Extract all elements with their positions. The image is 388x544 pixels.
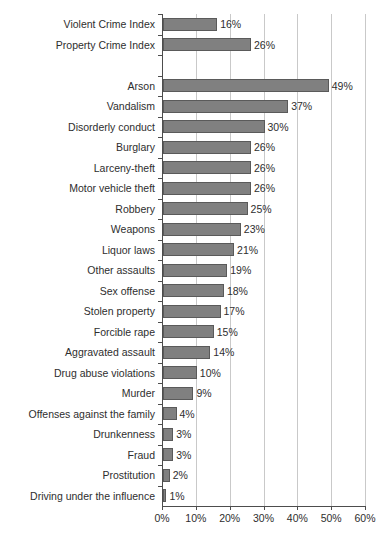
y-tick [158, 219, 162, 220]
y-tick [158, 55, 162, 56]
bar-value-label: 4% [180, 409, 195, 420]
y-tick [158, 424, 162, 425]
bar [163, 120, 265, 133]
bar-value-label: 30% [268, 122, 289, 133]
bar [163, 489, 166, 502]
bar-value-label: 3% [176, 429, 191, 440]
y-tick [158, 14, 162, 15]
bar-value-label: 21% [237, 245, 258, 256]
category-label: Arson [128, 81, 155, 92]
bar-value-label: 19% [230, 265, 251, 276]
y-tick [158, 281, 162, 282]
category-label: Liquor laws [102, 245, 155, 256]
category-label: Fraud [128, 450, 155, 461]
bar [163, 264, 227, 277]
bar-value-label: 49% [332, 81, 353, 92]
bar-value-label: 26% [254, 142, 275, 153]
x-tick-label: 10% [185, 512, 206, 524]
bar-value-label: 9% [196, 388, 211, 399]
category-label: Prostitution [102, 470, 155, 481]
x-tick-30 [264, 506, 265, 510]
category-label: Drug abuse violations [54, 368, 155, 379]
bar-value-label: 25% [251, 204, 272, 215]
gridline-60 [365, 14, 366, 506]
y-tick [158, 137, 162, 138]
bar-value-label: 3% [176, 450, 191, 461]
y-tick [158, 76, 162, 77]
y-tick [158, 301, 162, 302]
category-label: Violent Crime Index [64, 19, 155, 30]
x-tick-label: 20% [219, 512, 240, 524]
bar-value-label: 26% [254, 163, 275, 174]
category-label: Forcible rape [94, 327, 155, 338]
y-tick [158, 342, 162, 343]
bar [163, 407, 177, 420]
category-label: Robbery [115, 204, 155, 215]
category-label: Offenses against the family [29, 409, 155, 420]
category-label: Property Crime Index [56, 40, 155, 51]
y-tick [158, 383, 162, 384]
x-tick-label: 30% [253, 512, 274, 524]
y-tick [158, 465, 162, 466]
y-tick [158, 260, 162, 261]
y-tick [158, 96, 162, 97]
category-label: Vandalism [107, 101, 155, 112]
x-tick-40 [297, 506, 298, 510]
y-tick [158, 404, 162, 405]
y-tick [158, 322, 162, 323]
category-label: Driving under the influence [30, 491, 155, 502]
y-tick [158, 199, 162, 200]
category-label: Burglary [116, 142, 155, 153]
bar [163, 182, 251, 195]
bar [163, 284, 224, 297]
y-tick [158, 486, 162, 487]
category-label: Sex offense [100, 286, 155, 297]
bar [163, 325, 214, 338]
bar-value-label: 2% [173, 470, 188, 481]
x-tick-20 [230, 506, 231, 510]
bar [163, 305, 221, 318]
bar-value-label: 15% [217, 327, 238, 338]
x-tick-60 [365, 506, 366, 510]
y-tick [158, 35, 162, 36]
bar-value-label: 18% [227, 286, 248, 297]
bar [163, 346, 210, 359]
y-tick [158, 178, 162, 179]
horizontal-bar-chart: Violent Crime Index16%Property Crime Ind… [0, 0, 388, 544]
bar [163, 141, 251, 154]
bar [163, 18, 217, 31]
x-tick-label: 60% [354, 512, 375, 524]
bar [163, 448, 173, 461]
bar-value-label: 23% [244, 224, 265, 235]
bar [163, 387, 193, 400]
category-label: Motor vehicle theft [69, 183, 155, 194]
x-tick-0 [162, 506, 163, 510]
x-tick-label: 50% [321, 512, 342, 524]
bar [163, 79, 329, 92]
category-label: Drunkenness [93, 429, 155, 440]
bar [163, 469, 170, 482]
bar [163, 38, 251, 51]
bar [163, 428, 173, 441]
bar-value-label: 10% [200, 368, 221, 379]
bar [163, 100, 288, 113]
category-label: Stolen property [84, 306, 155, 317]
category-label: Disorderly conduct [68, 122, 155, 133]
category-label: Murder [122, 388, 155, 399]
bar-value-label: 16% [220, 19, 241, 30]
category-label: Other assaults [87, 265, 155, 276]
x-tick-label: 0% [154, 512, 169, 524]
y-tick [158, 240, 162, 241]
y-tick [158, 117, 162, 118]
bar-value-label: 37% [291, 101, 312, 112]
y-tick [158, 445, 162, 446]
bar [163, 161, 251, 174]
bar [163, 366, 197, 379]
bar [163, 202, 248, 215]
bar [163, 243, 234, 256]
bar-value-label: 14% [213, 347, 234, 358]
bar-value-label: 1% [169, 491, 184, 502]
y-tick [158, 158, 162, 159]
bar [163, 223, 241, 236]
bar-value-label: 17% [224, 306, 245, 317]
